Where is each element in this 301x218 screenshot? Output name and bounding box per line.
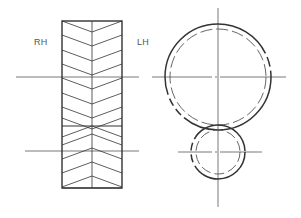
- left-hand-label: LH: [137, 37, 149, 47]
- right-hand-label: RH: [34, 37, 48, 47]
- gear-end-view: [152, 8, 286, 207]
- gear-drawing: [0, 0, 301, 218]
